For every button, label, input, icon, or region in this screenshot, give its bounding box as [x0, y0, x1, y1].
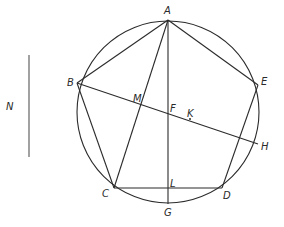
pentagon-diagram: N A B C D E F G H K L M — [0, 0, 284, 227]
side-ab — [77, 20, 168, 83]
label-l: L — [170, 178, 176, 189]
label-f: F — [170, 103, 176, 114]
side-bc — [77, 83, 114, 188]
label-n: N — [6, 101, 14, 112]
label-k: K — [187, 108, 195, 119]
label-b: B — [67, 77, 74, 88]
label-g: G — [164, 207, 172, 218]
side-de — [222, 85, 258, 188]
label-a: A — [163, 5, 171, 16]
label-c: C — [102, 188, 109, 199]
side-ae — [168, 20, 258, 85]
label-d: D — [223, 190, 231, 201]
label-h: H — [261, 141, 269, 152]
label-e: E — [261, 76, 268, 87]
label-m: M — [133, 93, 142, 104]
